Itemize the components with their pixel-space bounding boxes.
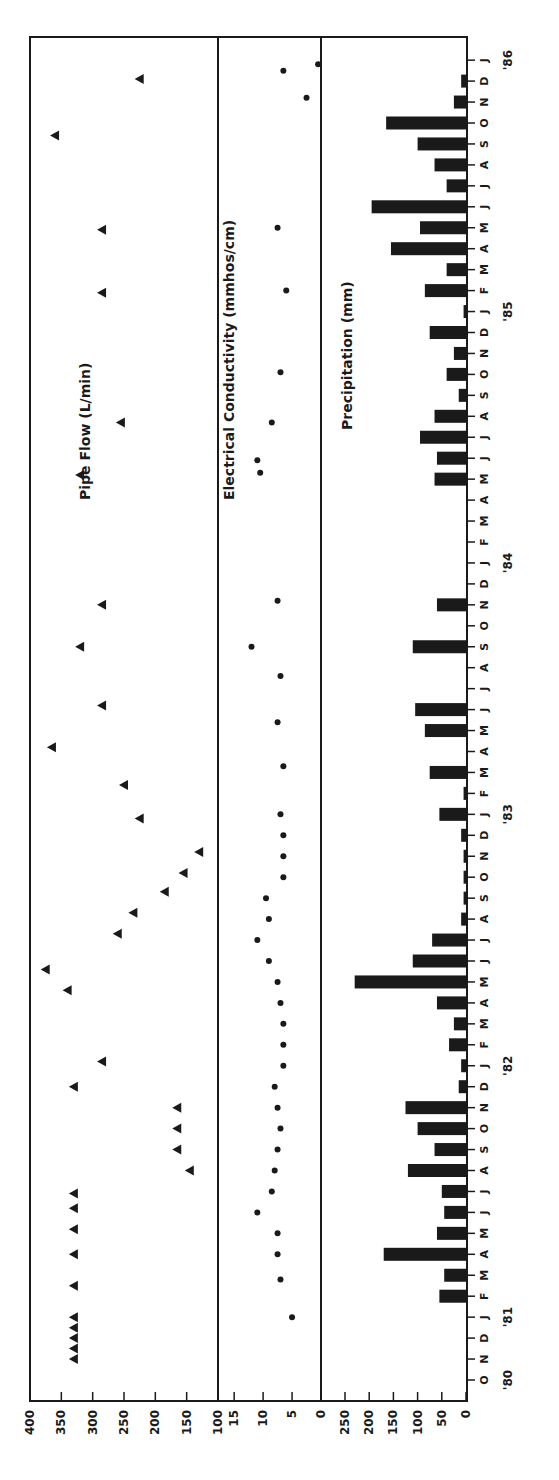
conductivity-point: [275, 719, 281, 725]
month-label: O: [478, 370, 491, 379]
month-label: N: [478, 97, 491, 106]
month-label: J: [478, 687, 491, 692]
month-label: A: [478, 1166, 491, 1175]
pipe-flow-point: [135, 814, 144, 824]
pipe-flow-point: [194, 847, 203, 857]
pipe-flow-axis-label: 250: [117, 1410, 131, 1435]
month-label: F: [478, 1041, 491, 1049]
month-label: D: [478, 328, 491, 337]
value-axes: 4003503002502001501001510502502001501005…: [23, 1392, 473, 1435]
precipitation-axis-label: 100: [411, 1410, 425, 1435]
month-label: J: [478, 959, 491, 964]
pipe-flow-point: [128, 908, 137, 918]
precipitation-bar: [447, 263, 466, 276]
month-label: J: [478, 58, 491, 63]
precipitation-bar: [447, 368, 466, 381]
precipitation-bar: [459, 1080, 466, 1093]
month-label: N: [478, 349, 491, 358]
precipitation-bar: [435, 410, 466, 423]
precipitation-bar: [439, 1290, 466, 1303]
pipe-flow-point: [75, 642, 84, 652]
month-label: M: [478, 1018, 491, 1029]
precipitation-bar: [391, 242, 466, 255]
pipe-flow-point: [69, 1281, 78, 1291]
precipitation-bar: [355, 975, 466, 988]
year-label: '81: [501, 1307, 515, 1327]
precipitation-bar: [461, 913, 466, 926]
precipitation-bar: [435, 158, 466, 171]
pipe-flow-point: [69, 1189, 78, 1199]
precipitation-bar: [444, 1206, 466, 1219]
conductivity-point: [277, 811, 283, 817]
conductivity-point: [272, 1168, 278, 1174]
conductivity-point: [275, 1147, 281, 1153]
conductivity-point: [275, 1105, 281, 1111]
pipe-flow-point: [172, 1145, 181, 1155]
month-label: O: [478, 1124, 491, 1133]
precipitation-bar: [461, 1059, 466, 1072]
month-label: J: [478, 812, 491, 817]
precipitation-bar: [408, 1164, 466, 1177]
conductivity-point: [257, 470, 263, 476]
precipitation-bar: [418, 137, 466, 150]
precipitation-bar: [406, 1101, 467, 1114]
month-label: J: [478, 1210, 491, 1215]
precipitation-bar: [461, 75, 466, 88]
conductivity-point: [277, 1000, 283, 1006]
conductivity-point: [304, 95, 310, 101]
pipe-flow-point: [97, 1057, 106, 1067]
conductivity-point: [280, 763, 286, 769]
conductivity-point: [280, 1063, 286, 1069]
month-label: D: [478, 1334, 491, 1343]
month-label: D: [478, 1082, 491, 1091]
year-label: '86: [501, 50, 515, 70]
precipitation-bar: [425, 284, 466, 297]
conductivity-axis-label: 15: [227, 1410, 241, 1427]
precipitation-bar: [425, 724, 466, 737]
month-label: A: [478, 495, 491, 504]
precipitation-bar: [464, 305, 466, 318]
pipe-flow-point: [69, 1344, 78, 1354]
conductivity-point: [263, 895, 269, 901]
month-label: M: [478, 976, 491, 987]
precipitation-bar: [461, 829, 466, 842]
precipitation-bar: [444, 1269, 466, 1282]
precipitation-axis-label: 50: [435, 1410, 449, 1427]
pipe-flow-point: [69, 1082, 78, 1092]
pipe-flow-point: [50, 131, 59, 141]
month-label: S: [478, 391, 491, 399]
conductivity-point: [277, 1126, 283, 1132]
precipitation-bar: [449, 1038, 466, 1051]
conductivity-axis-label: 0: [314, 1410, 328, 1418]
pipe-flow-axis-label: 400: [23, 1410, 37, 1435]
conductivity-point: [277, 673, 283, 679]
conductivity-point: [280, 853, 286, 859]
precipitation-bar: [442, 1185, 466, 1198]
pipe-flow-point: [185, 1166, 194, 1176]
month-label: M: [478, 264, 491, 275]
month-label: A: [478, 160, 491, 169]
month-label: A: [478, 914, 491, 923]
month-label: F: [478, 790, 491, 798]
conductivity-point: [266, 916, 272, 922]
conductivity-point: [280, 1042, 286, 1048]
precipitation-bar: [435, 1143, 466, 1156]
month-label: N: [478, 852, 491, 861]
conductivity-point: [277, 1276, 283, 1282]
hydrology-chart: Pipe Flow (L/min) Electrical Conductivit…: [0, 0, 559, 1480]
precipitation-bar: [464, 787, 466, 800]
conductivity-point: [280, 832, 286, 838]
month-label: D: [478, 579, 491, 588]
precipitation-bar: [437, 452, 466, 465]
precipitation-bar: [418, 1122, 466, 1135]
precipitation-bar: [439, 808, 466, 821]
month-label: J: [478, 205, 491, 210]
month-label: A: [478, 998, 491, 1007]
month-label: M: [478, 474, 491, 485]
month-label: A: [478, 747, 491, 756]
month-label: M: [478, 725, 491, 736]
time-axis: ONDJFMAMJJASONDJFMAMJJASONDJFMAMJJASONDJ…: [467, 50, 515, 1390]
conductivity-series: [249, 61, 322, 1320]
pipe-flow-point: [172, 1103, 181, 1113]
conductivity-point: [275, 598, 281, 604]
